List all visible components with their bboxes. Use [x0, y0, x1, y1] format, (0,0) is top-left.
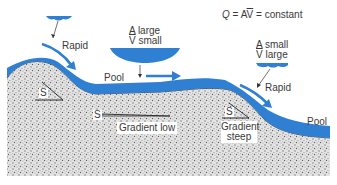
- pool-cross-section: [110, 48, 180, 63]
- formula-eq2: = constant: [253, 9, 302, 20]
- label-small-text: small: [136, 35, 162, 46]
- pointer-arrowhead-pool: [138, 74, 142, 78]
- label-v-large: V large: [256, 50, 288, 60]
- stream-profile-diagram: Q = AV = constant Rapid A large V small …: [0, 0, 337, 185]
- label-slope-right: S: [225, 107, 234, 117]
- label-v-bar-small: V: [129, 35, 136, 46]
- label-pool-right: Pool: [307, 117, 327, 127]
- formula-q: Q: [222, 9, 230, 20]
- label-slope-middle: S: [93, 110, 102, 120]
- rapid-cross-section-left: [46, 16, 72, 21]
- formula-eq1: = A: [230, 9, 247, 20]
- label-gradient-steep: Gradient steep: [221, 121, 257, 143]
- label-rapid-left: Rapid: [62, 41, 88, 51]
- label-rapid-right: Rapid: [265, 83, 291, 93]
- label-v-small: V small: [129, 36, 162, 46]
- rapid-arrowhead-left: [66, 61, 76, 70]
- label-pool-middle: Pool: [104, 73, 124, 83]
- label-slope-left: S: [39, 88, 48, 98]
- label-gradient-steep-line2: steep: [221, 132, 257, 142]
- pointer-arrowhead-right: [257, 83, 261, 88]
- label-large-text: large: [263, 49, 288, 60]
- pointer-arrowhead-left: [51, 34, 55, 38]
- label-gradient-low: Gradient low: [117, 122, 177, 134]
- pool-arrowhead: [172, 71, 181, 81]
- label-v-bar-large: V: [256, 49, 263, 60]
- rapid-cross-section-right: [256, 63, 288, 68]
- continuity-formula: Q = AV = constant: [222, 10, 302, 20]
